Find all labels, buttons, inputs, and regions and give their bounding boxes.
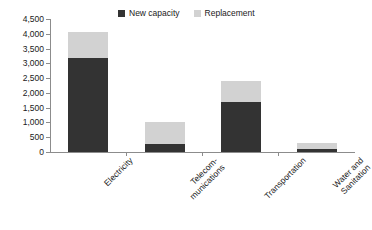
legend-entry-replacement: Replacement: [194, 9, 255, 18]
x-axis-label-telecommunications: Telecom- munications: [181, 156, 227, 202]
y-tick-label-3000: 3,000: [23, 59, 44, 68]
bar-segment-new-capacity-electricity: [68, 58, 108, 152]
bar-electricity: [68, 32, 108, 152]
y-tick-label-1000: 1,000: [23, 118, 44, 127]
y-tick-label-1500: 1,500: [23, 103, 44, 112]
legend-label-new-capacity: New capacity: [129, 9, 180, 18]
y-tick-label-4000: 4,000: [23, 29, 44, 38]
legend-label-replacement: Replacement: [205, 9, 255, 18]
x-axis-label-electricity: Electricity: [103, 156, 136, 189]
legend-swatch-new-capacity: [118, 10, 125, 17]
x-axis-label-transportation-line-0: Transportation: [263, 156, 308, 201]
bar-segment-new-capacity-water-and-sanitation: [297, 149, 337, 152]
legend-swatch-replacement: [194, 10, 201, 17]
legend-entry-new-capacity: New capacity: [118, 9, 180, 18]
bar-segment-replacement-electricity: [68, 32, 108, 58]
y-tick-label-0: 0: [39, 148, 44, 157]
y-tick-label-2000: 2,000: [23, 89, 44, 98]
bar-segment-replacement-transportation: [221, 81, 261, 102]
bar-segment-replacement-telecommunications: [145, 122, 185, 144]
y-tick-label-3500: 3,500: [23, 44, 44, 53]
y-tick-label-500: 500: [30, 133, 44, 142]
bar-water-and-sanitation: [297, 143, 337, 152]
plot-area: 0 500 1,000 1,500 2,000 2,500 3,000 3,5: [50, 19, 355, 152]
y-tick-label-4500: 4,500: [23, 15, 44, 24]
chart-legend: New capacity Replacement: [118, 9, 255, 18]
x-axis-label-water-and-sanitation: Water and Sanitation: [331, 156, 372, 197]
bar-segment-new-capacity-transportation: [221, 102, 261, 152]
y-tick-label-2500: 2,500: [23, 74, 44, 83]
y-axis-line: [50, 19, 51, 152]
x-axis-label-transportation: Transportation: [263, 156, 308, 201]
x-axis-label-electricity-line-0: Electricity: [103, 156, 136, 189]
bar-segment-new-capacity-telecommunications: [145, 144, 185, 152]
x-tick-3: [278, 152, 279, 156]
x-tick-2: [202, 152, 203, 156]
bar-transportation: [221, 81, 261, 152]
bar-telecommunications: [145, 122, 185, 152]
stacked-bar-chart: New capacity Replacement 0 500 1,000 1,5…: [0, 0, 372, 230]
